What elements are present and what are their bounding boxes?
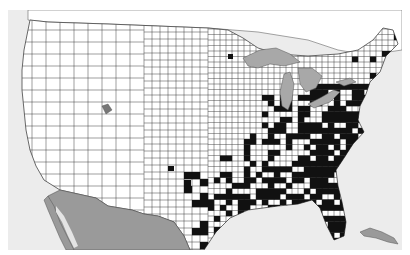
map-frame bbox=[8, 10, 402, 250]
county-map bbox=[8, 10, 402, 250]
